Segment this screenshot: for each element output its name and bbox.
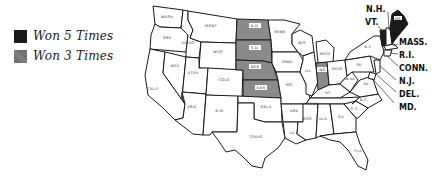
label-calif: CALIF <box>147 87 159 91</box>
label-md: MD. <box>399 103 417 112</box>
label-conn: CONN. <box>399 64 428 73</box>
label-mass: MASS. <box>399 38 427 47</box>
label-iowa: IOWA <box>282 60 293 64</box>
label-ind: IND <box>318 68 325 72</box>
label-tenn: TENN <box>306 102 318 106</box>
label-ga: GA <box>338 115 344 119</box>
label-va: VA <box>363 82 369 86</box>
label-nd: N.D. <box>251 24 260 28</box>
label-nc: N.C. <box>360 98 369 102</box>
label-del: DEL. <box>399 90 419 99</box>
label-sd: S.D. <box>251 46 260 50</box>
label-wyo: WYO <box>213 50 222 54</box>
label-nm: N.M. <box>215 109 224 113</box>
label-ohio: OHIO <box>332 67 343 71</box>
label-me: ME <box>395 17 401 21</box>
label-vt: VT. <box>365 18 378 27</box>
label-sc: S.C. <box>351 107 359 111</box>
label-neb: NEB <box>251 65 260 69</box>
label-mo: MO <box>286 83 293 87</box>
us-map: WASH ORE CALIF IDAHO NEV MONT WYO UTAH A… <box>0 0 438 188</box>
label-mont: MONT <box>205 24 218 28</box>
label-texas: TEXAS <box>248 135 263 139</box>
label-ala: ALA <box>319 117 327 121</box>
label-ky: KY <box>325 91 331 95</box>
state-colo <box>206 68 243 97</box>
label-ark: ARK <box>290 109 299 113</box>
label-wva: W.VA <box>345 77 355 81</box>
label-nev: NEV <box>171 64 180 68</box>
label-pa: PA <box>357 63 362 67</box>
label-fla: FLA <box>354 149 362 153</box>
label-ariz: ARIZ <box>187 105 197 109</box>
state-nj <box>374 60 380 74</box>
state-sd <box>236 40 272 63</box>
label-nj: N.J. <box>399 77 415 86</box>
state-nd <box>236 19 271 40</box>
label-ill: ILL <box>305 69 311 73</box>
label-wash: WASH <box>161 15 173 19</box>
label-ny: N.Y. <box>364 45 372 49</box>
label-kan: KAN <box>257 86 265 90</box>
label-colo: COLO <box>218 78 229 82</box>
label-minn: MINN <box>275 30 286 34</box>
label-la: LA <box>289 131 294 135</box>
label-wis: WIS <box>298 41 306 45</box>
label-nh: N.H. <box>366 5 385 14</box>
label-utah: UTAH <box>188 71 199 75</box>
label-miss: MISS <box>302 117 312 121</box>
label-ore: ORE <box>163 36 172 40</box>
label-mich: MICH <box>320 52 331 56</box>
label-ri: R.I. <box>399 51 414 60</box>
label-okla: OKLA <box>261 105 272 109</box>
label-idaho: IDAHO <box>181 41 194 45</box>
state-nm <box>203 95 238 135</box>
state-del-md <box>368 72 376 80</box>
state-wyo <box>199 42 236 70</box>
